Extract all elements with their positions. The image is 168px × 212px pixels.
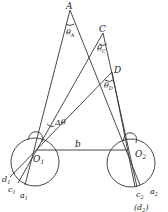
label-D: D: [113, 65, 121, 75]
ray-C-left: [18, 33, 103, 183]
label-O1: O1: [33, 154, 44, 165]
label-delta-theta: Δθ: [54, 118, 66, 127]
label-d1: d1: [2, 175, 10, 185]
ray-D-right: [112, 72, 135, 187]
angle-arc-A: [66, 24, 74, 26]
label-C: C: [99, 24, 106, 34]
label-c1: c1: [8, 185, 16, 195]
label-thetaA: θA: [66, 28, 75, 38]
binocular-diagram: A θA C θC D θD Δθ b O1 O2 d1 c1 a1 c2 a2…: [0, 0, 168, 212]
label-A: A: [65, 1, 73, 11]
label-b: b: [75, 139, 81, 149]
label-c2: c2: [136, 190, 144, 200]
label-a2: a2: [150, 187, 158, 197]
label-thetaD: θD: [104, 81, 113, 91]
label-d2: (d2): [134, 203, 149, 212]
label-O2: O2: [135, 149, 146, 160]
label-a1: a1: [20, 191, 28, 201]
